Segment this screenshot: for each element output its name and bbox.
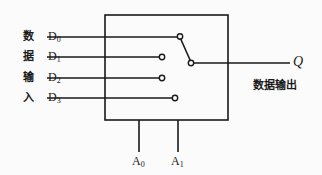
contact-terminal-d0 — [177, 34, 182, 39]
switch-pole-terminal — [188, 60, 193, 65]
pin-label-d0-sub: 0 — [57, 35, 61, 44]
contact-terminal-d2 — [159, 75, 164, 80]
contact-terminal-d1 — [159, 54, 164, 59]
pin-label-d0-base: D — [48, 29, 57, 43]
input-caption-char-1: 数 — [23, 31, 34, 42]
pin-label-d2-base: D — [48, 70, 57, 84]
pin-label-a0-base: A — [132, 154, 141, 168]
pin-label-d3: D3 — [48, 91, 61, 103]
pin-label-a1: A1 — [171, 155, 184, 167]
input-caption-char-2: 据 — [23, 51, 34, 62]
output-caption: 数据输出 — [253, 80, 297, 91]
mux-schematic-figure: 数 据 输 入 D0 D1 D2 D3 Q 数据输出 A0 A1 — [0, 0, 322, 175]
pin-label-a0: A0 — [132, 155, 145, 167]
switch-wiper-arm — [181, 39, 191, 62]
pin-label-d1-sub: 1 — [57, 55, 61, 64]
pin-label-d3-base: D — [48, 90, 57, 104]
contact-terminal-d3 — [172, 95, 177, 100]
mux-body-box — [105, 15, 228, 120]
pin-label-a1-sub: 1 — [180, 160, 184, 169]
pin-label-d2: D2 — [48, 71, 61, 83]
input-caption-char-4: 入 — [23, 92, 34, 103]
pin-label-d1: D1 — [48, 50, 61, 62]
pin-label-q: Q — [293, 55, 303, 69]
pin-label-a0-sub: 0 — [141, 160, 145, 169]
pin-label-d0: D0 — [48, 30, 61, 42]
pin-label-d2-sub: 2 — [57, 76, 61, 85]
pin-label-d3-sub: 3 — [57, 96, 61, 105]
input-caption-char-3: 输 — [23, 72, 34, 83]
pin-label-a1-base: A — [171, 154, 180, 168]
pin-label-d1-base: D — [48, 49, 57, 63]
